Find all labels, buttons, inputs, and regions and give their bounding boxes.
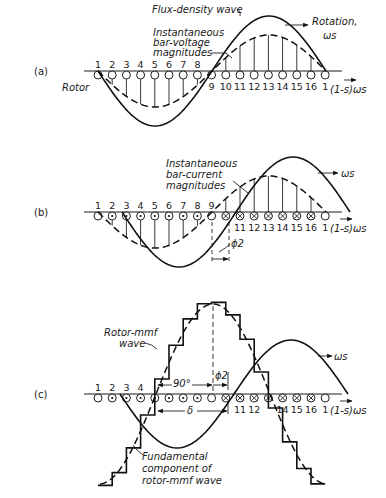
omega-label-c: ωs — [334, 351, 348, 362]
slot-number-label: 2 — [109, 200, 115, 211]
slot-number-label: 9 — [209, 200, 215, 211]
rotation-label: Rotation, — [312, 16, 357, 27]
slot-number-label: 11 — [234, 81, 246, 92]
rotor-bar-icon — [264, 71, 272, 79]
slot-number-label: 9 — [209, 81, 215, 92]
panel-b: (b) Instantaneous bar-current magnitudes… — [34, 157, 367, 267]
rotor-bar-icon — [293, 71, 301, 79]
inst-current-label-2: bar-current — [166, 169, 223, 180]
current-out-dot-icon — [182, 215, 184, 217]
slot-number-label: 15 — [291, 222, 303, 233]
fundamental-leader — [133, 445, 143, 455]
rotor-mmf-label-1: Rotor-mmf — [104, 327, 159, 338]
current-out-dot-icon — [111, 397, 113, 399]
slip-speed-label-c: (1-s)ωs — [330, 405, 367, 416]
current-out-dot-icon — [111, 215, 113, 217]
panel-a-label: (a) — [34, 66, 48, 77]
slot-number-label: 4 — [138, 59, 144, 70]
slot-number-label: 3 — [123, 200, 129, 211]
slot-number-label: 8 — [194, 59, 200, 70]
slot-number-label: 12 — [248, 222, 260, 233]
slip-speed-label-a: (1-s)ωs — [330, 84, 367, 95]
rotor-bar-icon — [193, 71, 201, 79]
fundamental-label-3: rotor-mmf wave — [142, 475, 222, 486]
inst-current-label-3: magnitudes — [166, 180, 225, 191]
current-out-dot-icon — [140, 215, 142, 217]
slot-number-label: 12 — [248, 404, 260, 415]
rotor-bar-icon — [321, 71, 329, 79]
slot-number-label: 7 — [180, 200, 186, 211]
rotor-mmf-diagram: (a) Rotor Flux-density wave Rotation, ωs… — [0, 0, 386, 498]
slot-number-label: 14 — [277, 81, 289, 92]
panel-b-label: (b) — [34, 207, 48, 218]
flux-density-label: Flux-density wave — [152, 4, 243, 15]
rotor-bar-icon — [165, 71, 173, 79]
current-out-dot-icon — [168, 397, 170, 399]
current-out-dot-icon — [140, 397, 142, 399]
slot-number-label: 15 — [291, 81, 303, 92]
slot-number-label: 3 — [123, 382, 129, 393]
current-out-dot-icon — [154, 215, 156, 217]
rotor-mmf-leader — [145, 343, 157, 349]
slot-number-label: 15 — [291, 404, 303, 415]
rotor-bar-icon — [222, 71, 230, 79]
slot-number-label: 2 — [109, 382, 115, 393]
slot-number-label: 1 — [322, 404, 328, 415]
fundamental-label-2: component of — [142, 463, 213, 474]
slot-number-label: 13 — [262, 81, 274, 92]
rotor-bar-icon — [94, 212, 102, 220]
rotor-bar-icon — [137, 71, 145, 79]
current-out-dot-icon — [196, 397, 198, 399]
slot-number-label: 4 — [138, 200, 144, 211]
rotor-bar-icon — [307, 71, 315, 79]
slot-number-label: 16 — [305, 222, 317, 233]
omega-label-b: ωs — [341, 168, 355, 179]
slot-number-label: 3 — [123, 59, 129, 70]
slot-number-label: 14 — [277, 222, 289, 233]
rotor-bar-icon — [94, 394, 102, 402]
rotor-mmf-label-2: wave — [119, 338, 145, 349]
rotor-bar-icon — [151, 71, 159, 79]
rotor-bar-icon — [321, 394, 329, 402]
slot-number-label: 1 — [95, 382, 101, 393]
rotor-bar-icon — [250, 71, 258, 79]
slot-number-label: 1 — [322, 81, 328, 92]
rotor-bar-icon — [122, 71, 130, 79]
current-out-dot-icon — [125, 397, 127, 399]
slot-number-label: 11 — [234, 222, 246, 233]
panel-c: (c) Rotor-mmf wave ωs 90° ϕ2 δ Fundament… — [34, 302, 367, 486]
diagram-canvas: (a) Rotor Flux-density wave Rotation, ωs… — [0, 0, 386, 498]
rotor-bar-icon — [108, 71, 116, 79]
panel-c-label: (c) — [34, 389, 47, 400]
inst-voltage-label-3: magnitudes — [153, 47, 212, 58]
slot-number-label: 12 — [248, 81, 260, 92]
slot-number-label: 4 — [138, 382, 144, 393]
rotor-bar-icon — [208, 394, 216, 402]
panel-a: (a) Rotor Flux-density wave Rotation, ωs… — [34, 4, 367, 126]
slot-number-label: 7 — [180, 59, 186, 70]
slot-number-label: 1 — [322, 222, 328, 233]
slip-speed-label-b: (1-s)ωs — [330, 223, 367, 234]
ninety-degree-label: 90° — [173, 378, 191, 389]
slot-number-label: 16 — [305, 81, 317, 92]
phi-label-c: ϕ2 — [215, 370, 228, 381]
slot-number-label: 6 — [166, 200, 172, 211]
slot-number-label: 13 — [262, 222, 274, 233]
slot-number-label: 8 — [194, 200, 200, 211]
current-out-dot-icon — [182, 397, 184, 399]
slot-number-label: 10 — [220, 81, 232, 92]
rotor-label: Rotor — [62, 82, 90, 93]
fundamental-label-1: Fundamental — [142, 451, 208, 462]
slot-number-label: 11 — [234, 404, 246, 415]
inst-current-label-1: Instantaneous — [166, 158, 237, 169]
rotor-bar-icon — [321, 212, 329, 220]
delta-label: δ — [187, 405, 193, 416]
current-out-dot-icon — [168, 215, 170, 217]
rotor-bar-icon — [179, 71, 187, 79]
rotor-bar-icon — [279, 71, 287, 79]
rotor-bar-icon — [236, 71, 244, 79]
slot-number-label: 5 — [152, 200, 158, 211]
rotation-omega-label: ωs — [323, 30, 337, 41]
current-out-dot-icon — [196, 215, 198, 217]
phi-label-b: ϕ2 — [231, 238, 244, 249]
